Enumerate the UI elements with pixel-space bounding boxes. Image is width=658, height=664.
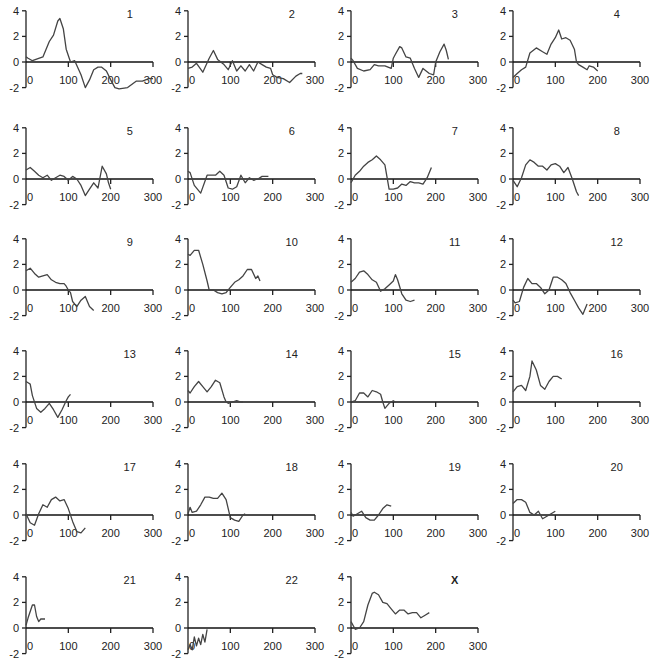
x-tick-label: 200 <box>426 640 444 652</box>
y-tick-label: 4 <box>338 571 344 583</box>
x-tick-label: 100 <box>384 640 402 652</box>
y-tick-label: -2 <box>334 648 344 660</box>
panel-x: -20240100200300X <box>0 0 164 112</box>
x-tick-label: 300 <box>469 640 487 652</box>
y-tick-label: 2 <box>338 596 344 608</box>
x-tick-label: 0 <box>352 640 358 652</box>
series-line <box>351 592 429 629</box>
panel-label: X <box>451 574 459 586</box>
small-multiples-grid: -202401002003001-202401002003002-2024010… <box>0 0 658 664</box>
y-tick-label: 0 <box>338 622 344 634</box>
panel-plot: -20240100200300X <box>0 0 658 664</box>
